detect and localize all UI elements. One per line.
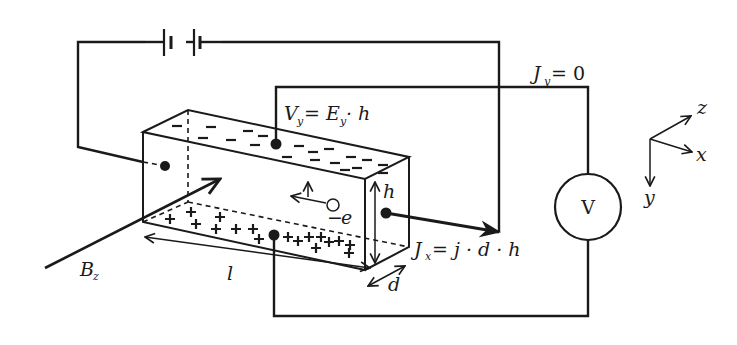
bottom-contact-point — [269, 230, 280, 241]
jy-equation: J y = 0 — [529, 62, 585, 88]
svg-text:= 0: = 0 — [551, 62, 585, 84]
svg-text:= j · d · h: = j · d · h — [432, 238, 521, 260]
svg-text:z: z — [92, 270, 99, 283]
svg-text:y: y — [543, 75, 551, 88]
svg-text:J: J — [529, 62, 542, 84]
electron-label: e — [341, 206, 352, 228]
height-label: h — [383, 180, 395, 202]
svg-text:· h: · h — [346, 102, 370, 124]
svg-text:= E: = E — [304, 102, 340, 124]
battery-wire-left-hidden — [143, 162, 160, 165]
length-label: l — [227, 262, 233, 284]
vy-probe-wire — [276, 87, 588, 180]
x-axis-label: x — [696, 143, 707, 165]
x-axis-arrow — [650, 139, 692, 152]
negative-charges — [172, 126, 388, 173]
y-axis-label: y — [643, 186, 655, 208]
svg-text:J: J — [410, 238, 423, 260]
current-arrow-icon — [386, 213, 499, 232]
svg-text:B: B — [79, 258, 94, 280]
hall-effect-diagram: V — [0, 0, 737, 345]
left-contact-point — [160, 161, 170, 171]
jx-equation: J x = j · d · h — [410, 238, 521, 263]
svg-text:y: y — [296, 115, 304, 128]
svg-text:x: x — [425, 250, 432, 263]
voltmeter-label: V — [580, 196, 595, 218]
bz-label: B z — [79, 258, 99, 283]
electron-icon: − e — [291, 182, 352, 228]
vy-equation: V y = E y · h — [284, 102, 370, 128]
top-contact-point — [271, 139, 282, 150]
bottom-probe-wire — [274, 235, 588, 316]
z-axis-label: z — [696, 96, 708, 118]
depth-label: d — [388, 273, 400, 295]
coordinate-axes-icon: z x y — [643, 96, 708, 208]
battery-icon — [145, 29, 222, 56]
z-axis-arrow — [650, 116, 691, 139]
battery-wire-left — [78, 42, 145, 162]
